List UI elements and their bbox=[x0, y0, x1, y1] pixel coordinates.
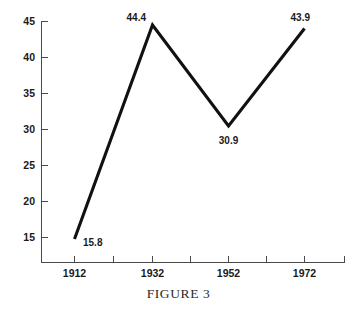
y-tick-label-20: 20 bbox=[23, 195, 35, 207]
x-tick-label-1972: 1972 bbox=[293, 267, 317, 279]
data-series-group bbox=[75, 25, 305, 239]
chart-axes bbox=[42, 21, 346, 263]
y-tick-label-35: 35 bbox=[23, 87, 35, 99]
line-chart: 45 40 35 30 25 20 15 1912 1932 1952 1972 bbox=[0, 0, 357, 283]
point-label-1952: 30.9 bbox=[219, 135, 239, 146]
y-axis-ticks bbox=[42, 22, 49, 238]
point-label-1972: 43.9 bbox=[291, 12, 311, 23]
y-tick-label-30: 30 bbox=[23, 123, 35, 135]
x-axis-tick-labels: 1912 1932 1952 1972 bbox=[63, 267, 317, 279]
x-tick-label-1952: 1952 bbox=[217, 267, 241, 279]
y-tick-label-25: 25 bbox=[23, 159, 35, 171]
x-tick-label-1912: 1912 bbox=[63, 267, 87, 279]
series-line-path bbox=[75, 25, 305, 239]
y-axis-tick-labels: 45 40 35 30 25 20 15 bbox=[23, 15, 35, 243]
y-tick-label-15: 15 bbox=[23, 231, 35, 243]
point-label-1912: 15.8 bbox=[83, 237, 103, 248]
x-axis-ticks bbox=[75, 256, 345, 263]
point-label-1932: 44.4 bbox=[127, 12, 147, 23]
y-tick-label-40: 40 bbox=[23, 51, 35, 63]
data-point-labels: 15.8 44.4 30.9 43.9 bbox=[83, 12, 310, 248]
x-tick-label-1932: 1932 bbox=[141, 267, 165, 279]
figure-caption: FIGURE 3 bbox=[0, 286, 357, 302]
figure-container: 45 40 35 30 25 20 15 1912 1932 1952 1972 bbox=[0, 0, 357, 309]
y-tick-label-45: 45 bbox=[23, 15, 35, 27]
